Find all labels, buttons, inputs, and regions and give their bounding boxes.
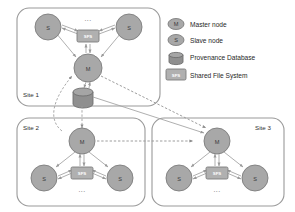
provenance-database[interactable] xyxy=(73,88,93,108)
slave-node-label: S xyxy=(46,25,50,31)
site2-to-site1-curve xyxy=(54,76,72,131)
db-to-site3-link xyxy=(93,97,204,133)
legend-label-master-node: Master node xyxy=(190,21,227,28)
master-node-icon-symbol: M xyxy=(174,21,179,27)
legend-item-slave-node: S Slave node xyxy=(168,35,223,46)
site-1-slave-right[interactable]: S xyxy=(116,14,142,40)
site-1-label: Site 1 xyxy=(23,91,39,98)
slave-node-label: S xyxy=(177,176,181,182)
database-icon xyxy=(169,52,183,64)
master-node-label: M xyxy=(215,139,220,145)
sfs-label: SFS xyxy=(213,171,222,176)
site-3-ellipsis: ... xyxy=(213,186,220,193)
legend-item-provenance-database: Provenance Database xyxy=(169,52,256,64)
legend: M Master node S Slave node Provenance Da… xyxy=(166,19,256,81)
slave-node-icon-symbol: S xyxy=(174,37,178,43)
site1-db-links xyxy=(84,82,90,88)
legend-label-provenance-database: Provenance Database xyxy=(190,54,256,61)
legend-item-shared-file-system: SFS Shared File System xyxy=(166,69,248,80)
site-1-sfs[interactable]: SFS xyxy=(77,30,99,42)
diagram-canvas: SFS ... S S M Site 1 Site 2 xyxy=(0,0,295,212)
site-3-sfs[interactable]: SFS xyxy=(206,167,228,179)
legend-item-master-node: M Master node xyxy=(168,19,227,30)
sfs-label: SFS xyxy=(78,171,87,176)
site-2-slave-right[interactable]: S xyxy=(107,165,133,191)
slave-node-label: S xyxy=(127,25,131,31)
site-3-slave-right[interactable]: S xyxy=(242,165,268,191)
slave-node-label: S xyxy=(118,176,122,182)
shared-file-system-icon-symbol: SFS xyxy=(172,73,181,78)
site-3-slave-left[interactable]: S xyxy=(166,165,192,191)
site-2-label: Site 2 xyxy=(23,124,39,131)
site-3-label: Site 3 xyxy=(255,124,271,131)
slave-node-label: S xyxy=(42,176,46,182)
site-2-slave-left[interactable]: S xyxy=(31,165,57,191)
site-2-ellipsis: ... xyxy=(78,186,85,193)
site-1-slave-left[interactable]: S xyxy=(35,14,61,40)
site-2-sfs[interactable]: SFS xyxy=(71,167,93,179)
slave-node-label: S xyxy=(253,176,257,182)
legend-label-shared-file-system: Shared File System xyxy=(190,72,248,80)
master-node-label: M xyxy=(80,139,85,145)
legend-label-slave-node: Slave node xyxy=(190,37,223,44)
site-3-master[interactable]: M xyxy=(204,128,230,154)
site1-to-site3-link xyxy=(101,76,206,128)
site-1-ellipsis: ... xyxy=(84,15,91,22)
site-1-master[interactable]: M xyxy=(74,54,102,82)
sfs-label: SFS xyxy=(84,34,93,39)
site-2-master[interactable]: M xyxy=(69,128,95,154)
master-node-label: M xyxy=(86,66,91,72)
